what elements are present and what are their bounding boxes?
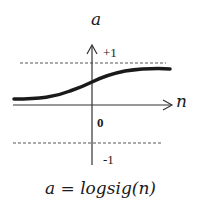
origin-label: 0 [97,116,104,129]
formula-caption: a = logsig(n) [0,180,201,197]
upper-asymptote-label: +1 [103,46,117,59]
x-axis-label: n [176,93,187,110]
lower-asymptote-label: -1 [103,153,114,166]
plot-canvas [0,0,201,206]
logsig-diagram: a n +1 0 -1 a = logsig(n) [0,0,201,206]
y-axis-label: a [91,11,101,28]
